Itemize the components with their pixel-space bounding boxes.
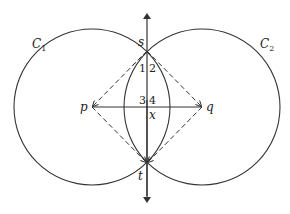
label-point-x: x xyxy=(149,108,156,122)
angle-label-3: 3 xyxy=(139,94,146,107)
label-point-s: s xyxy=(138,35,144,49)
diagram-canvas: C1 C2 s t p q x 1 2 3 4 xyxy=(0,0,290,214)
label-point-p: p xyxy=(80,100,88,114)
construction-diagram: C1 C2 s t p q x 1 2 3 4 xyxy=(0,0,290,214)
angle-label-4: 4 xyxy=(149,94,156,107)
label-point-t: t xyxy=(138,169,143,183)
angle-label-2: 2 xyxy=(149,62,156,75)
dashed-segment-pt xyxy=(92,107,146,162)
label-c1: C1 xyxy=(32,37,46,53)
dashed-segment-qt xyxy=(148,107,202,162)
label-point-q: q xyxy=(206,100,214,114)
angle-label-1: 1 xyxy=(139,62,146,75)
label-c2: C2 xyxy=(260,37,274,53)
